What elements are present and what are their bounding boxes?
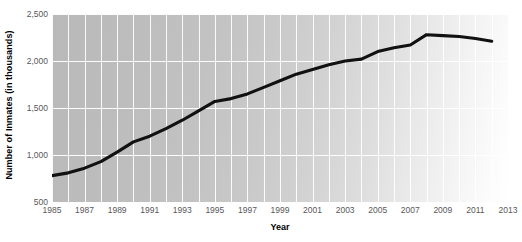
x-axis-title: Year <box>52 222 508 232</box>
x-tick-label: 1997 <box>238 205 257 215</box>
x-tick-label: 1985 <box>43 205 62 215</box>
inmate-population-line-chart: Number of Inmates (in thousands) 2,5002,… <box>0 0 522 242</box>
series-polyline <box>52 35 492 176</box>
y-tick-label: 2,500 <box>18 9 48 19</box>
y-tick-label: 2,000 <box>18 56 48 66</box>
plot-area <box>52 14 508 202</box>
x-tick-label: 1995 <box>205 205 224 215</box>
x-tick-label: 1987 <box>75 205 94 215</box>
x-tick-label: 2013 <box>499 205 518 215</box>
y-tick-label: 1,500 <box>18 103 48 113</box>
x-tick-label: 2003 <box>336 205 355 215</box>
x-tick-label: 2009 <box>433 205 452 215</box>
x-axis-tick-labels: 1985198719891991199319951997199920012003… <box>52 205 508 219</box>
x-tick-label: 2001 <box>303 205 322 215</box>
y-axis-title-label: Number of Inmates (in thousands) <box>4 30 14 179</box>
x-tick-label: 2011 <box>466 205 484 215</box>
series-line-number-of-inmates <box>52 14 508 202</box>
y-tick-label: 1,000 <box>18 150 48 160</box>
x-tick-label: 1993 <box>173 205 192 215</box>
x-tick-label: 1989 <box>108 205 127 215</box>
x-tick-label: 1991 <box>140 205 159 215</box>
x-tick-label: 2005 <box>368 205 387 215</box>
x-tick-label: 1999 <box>271 205 290 215</box>
x-tick-label: 2007 <box>401 205 420 215</box>
